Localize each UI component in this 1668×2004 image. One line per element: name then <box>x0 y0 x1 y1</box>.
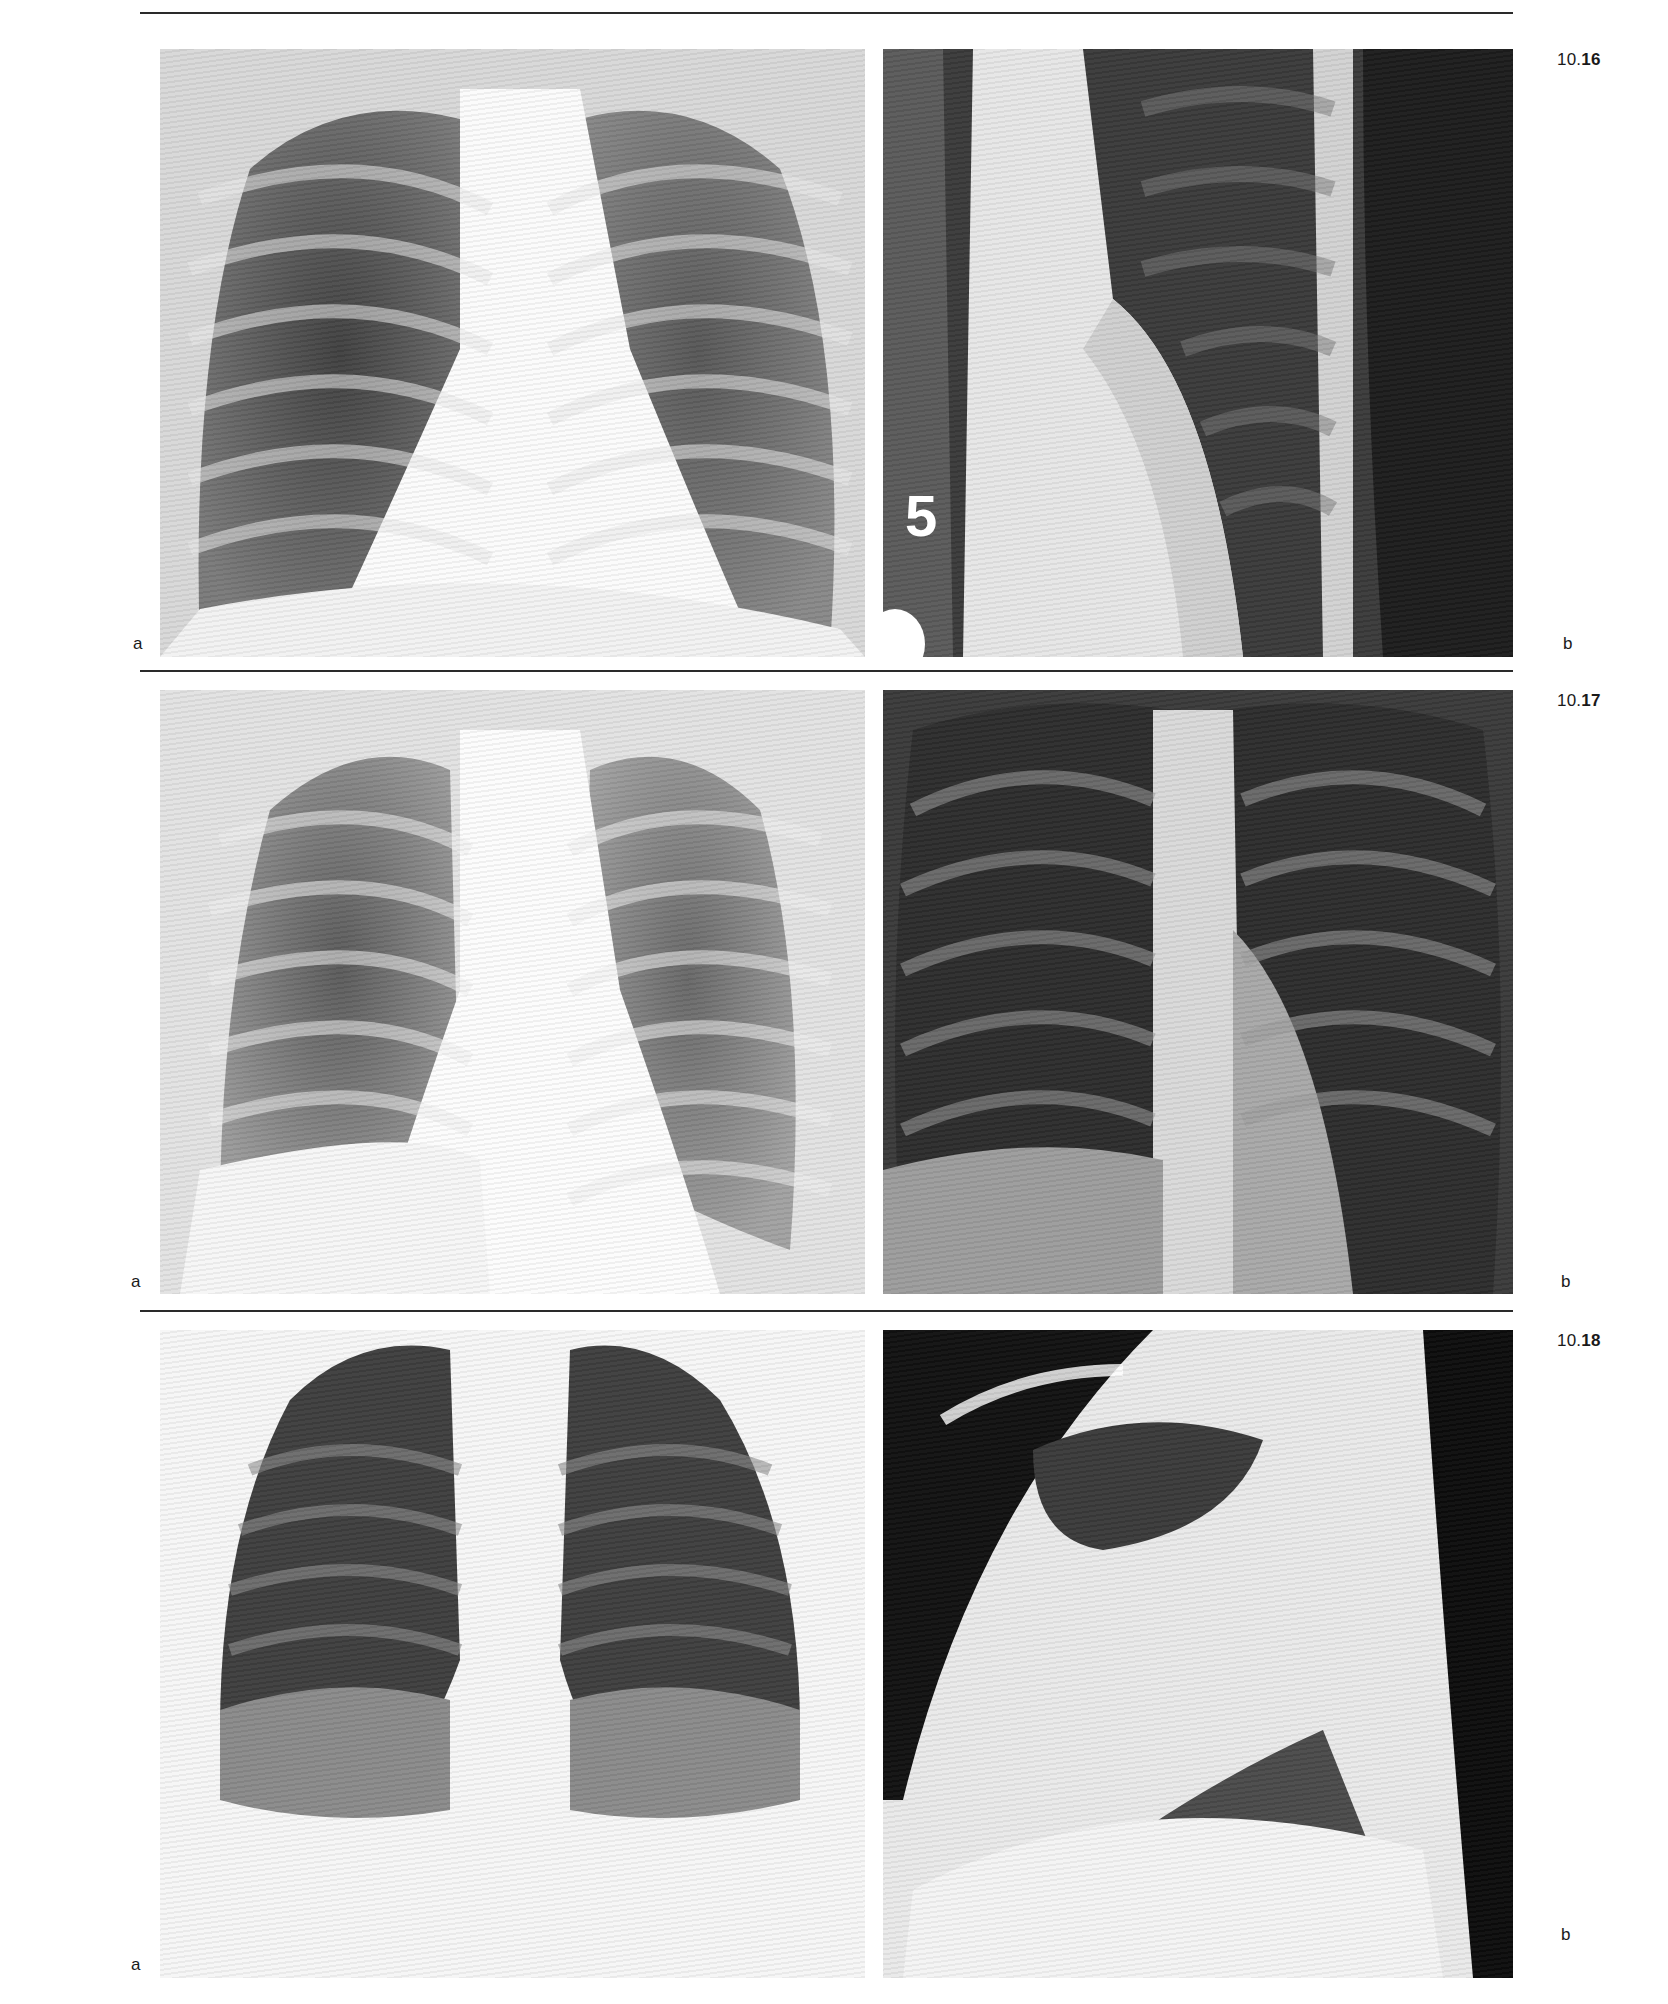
figure-10-17-panel-b <box>883 690 1513 1294</box>
panel-label-a: a <box>133 634 142 654</box>
top-rule <box>140 12 1513 14</box>
figure-10-17-panel-a <box>160 690 865 1294</box>
figure-10-16-panel-b: 5 <box>883 49 1513 657</box>
figure-divider <box>140 1310 1513 1312</box>
xray-image <box>883 1330 1513 1978</box>
figure-divider <box>140 670 1513 672</box>
figure-10-16-panel-a <box>160 49 865 657</box>
figure-10-18-panel-a <box>160 1330 865 1978</box>
figure-number-10-18: 10.18 <box>1557 1331 1601 1351</box>
panel-label-a: a <box>131 1272 140 1292</box>
panel-label-a: a <box>131 1955 140 1975</box>
xray-image <box>160 49 865 657</box>
xray-image <box>883 690 1513 1294</box>
figure-10-18-panel-b <box>883 1330 1513 1978</box>
film-marker-5: 5 <box>905 482 937 549</box>
figure-number-10-17: 10.17 <box>1557 691 1601 711</box>
panel-label-b: b <box>1561 1272 1570 1292</box>
panel-label-b: b <box>1561 1925 1570 1945</box>
figure-number-10-16: 10.16 <box>1557 50 1601 70</box>
xray-image <box>160 1330 865 1978</box>
panel-label-b: b <box>1563 634 1572 654</box>
xray-image <box>160 690 865 1294</box>
xray-image <box>883 49 1513 657</box>
